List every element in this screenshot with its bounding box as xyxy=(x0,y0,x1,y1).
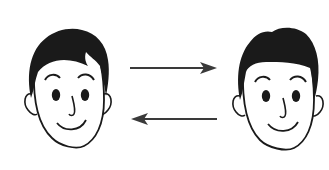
diagram-canvas xyxy=(0,0,329,170)
arrow-right xyxy=(130,62,217,74)
eye-right-icon xyxy=(81,89,89,101)
eye-right-icon xyxy=(292,90,300,102)
arrow-left xyxy=(131,113,217,125)
face-left xyxy=(25,29,111,148)
eye-left-icon xyxy=(52,89,60,101)
eye-left-icon xyxy=(262,90,270,102)
face-right xyxy=(233,28,323,150)
face-outline-icon xyxy=(243,68,314,150)
